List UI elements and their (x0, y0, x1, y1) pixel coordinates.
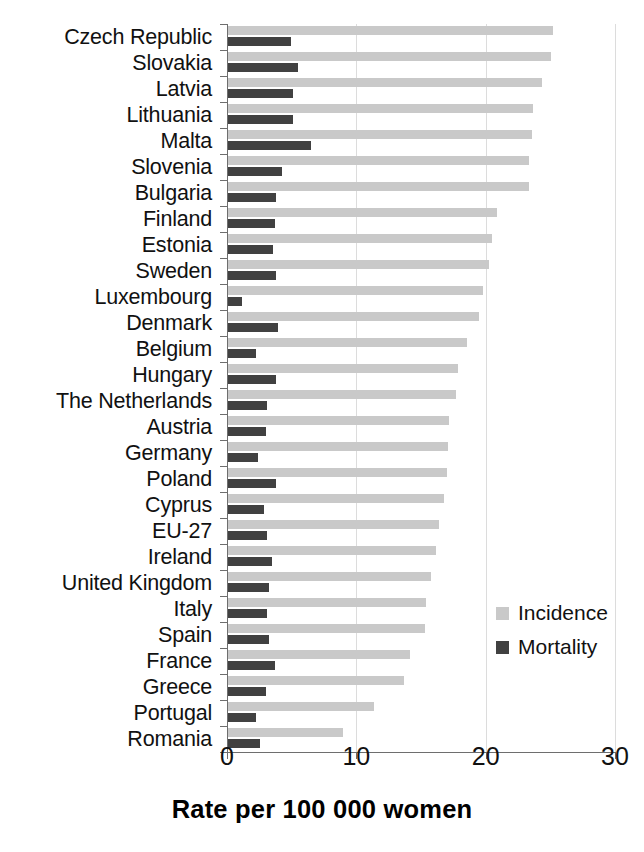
bar-incidence (228, 312, 479, 321)
category-label: The Netherlands (56, 388, 212, 414)
y-axis-tick (220, 596, 227, 597)
y-axis-tick (220, 336, 227, 337)
bar-mortality (228, 453, 258, 462)
x-axis-tick-label: 10 (326, 742, 386, 771)
category-label: France (146, 648, 212, 674)
y-axis-tick (220, 544, 227, 545)
legend-swatch-mortality-icon (496, 641, 509, 654)
legend-label-incidence: Incidence (518, 601, 608, 625)
y-axis-tick (220, 154, 227, 155)
bar-mortality (228, 193, 276, 202)
y-axis-tick (220, 50, 227, 51)
y-axis-tick (220, 622, 227, 623)
category-label: Italy (174, 596, 212, 622)
category-label: Greece (143, 674, 212, 700)
y-axis-tick (220, 674, 227, 675)
bar-incidence (228, 546, 436, 555)
y-axis-tick (220, 206, 227, 207)
bar-mortality (228, 427, 266, 436)
bar-incidence (228, 78, 542, 87)
category-label: Austria (146, 414, 212, 440)
y-axis-tick (220, 414, 227, 415)
y-axis-tick (220, 466, 227, 467)
y-axis-tick (220, 232, 227, 233)
bar-incidence (228, 52, 551, 61)
bar-incidence (228, 650, 410, 659)
bar-mortality (228, 505, 264, 514)
y-axis-tick (220, 362, 227, 363)
bar-incidence (228, 338, 467, 347)
bar-incidence (228, 676, 404, 685)
bar-mortality (228, 141, 311, 150)
bar-mortality (228, 635, 269, 644)
category-label: Estonia (142, 232, 212, 258)
category-label: Luxembourg (94, 284, 212, 310)
bar-incidence (228, 156, 529, 165)
bar-mortality (228, 323, 278, 332)
bar-mortality (228, 531, 267, 540)
bar-incidence (228, 598, 426, 607)
bar-incidence (228, 104, 533, 113)
bar-mortality (228, 167, 282, 176)
bar-mortality (228, 245, 273, 254)
bar-incidence (228, 260, 489, 269)
bar-incidence (228, 416, 449, 425)
category-label: EU-27 (152, 518, 212, 544)
legend-swatch-incidence-icon (496, 607, 509, 620)
bar-mortality (228, 479, 276, 488)
bar-mortality (228, 271, 276, 280)
bar-mortality (228, 115, 293, 124)
bar-incidence (228, 728, 343, 737)
y-axis-tick (220, 570, 227, 571)
category-axis-labels: Czech RepublicSlovakiaLatviaLithuaniaMal… (0, 24, 220, 752)
bar-incidence (228, 182, 529, 191)
bar-incidence (228, 390, 456, 399)
bar-incidence (228, 26, 553, 35)
bar-mortality (228, 713, 256, 722)
y-axis-tick (220, 180, 227, 181)
y-axis-tick (220, 102, 227, 103)
bar-incidence (228, 520, 439, 529)
bar-incidence (228, 442, 448, 451)
category-label: Bulgaria (135, 180, 212, 206)
bar-mortality (228, 349, 256, 358)
category-label: Denmark (126, 310, 212, 336)
y-axis-tick (220, 648, 227, 649)
y-axis-tick (220, 518, 227, 519)
bar-incidence (228, 494, 444, 503)
bar-incidence (228, 702, 374, 711)
category-label: Poland (146, 466, 212, 492)
bar-incidence (228, 364, 458, 373)
bar-mortality (228, 375, 276, 384)
bar-incidence (228, 234, 492, 243)
y-axis-tick (220, 388, 227, 389)
y-axis-tick (220, 440, 227, 441)
bar-incidence (228, 624, 425, 633)
bar-mortality (228, 297, 242, 306)
bar-mortality (228, 219, 275, 228)
bar-incidence (228, 468, 447, 477)
chart-legend: Incidence Mortality (496, 596, 636, 664)
bar-chart: Czech RepublicSlovakiaLatviaLithuaniaMal… (0, 0, 644, 852)
bar-mortality (228, 63, 298, 72)
x-axis-tick-label: 30 (585, 742, 644, 771)
bar-incidence (228, 208, 497, 217)
category-label: Ireland (148, 544, 212, 570)
x-axis-tick-label: 0 (197, 742, 257, 771)
x-axis-line (227, 752, 616, 753)
category-label: Czech Republic (64, 24, 212, 50)
y-axis-tick (220, 76, 227, 77)
bar-mortality (228, 609, 267, 618)
category-label: Spain (158, 622, 212, 648)
bar-incidence (228, 286, 483, 295)
bar-incidence (228, 130, 532, 139)
y-axis-tick (220, 726, 227, 727)
category-label: Sweden (136, 258, 213, 284)
y-axis-tick (220, 284, 227, 285)
bar-mortality (228, 37, 291, 46)
y-axis-tick (220, 24, 227, 25)
y-axis-tick (220, 492, 227, 493)
bar-mortality (228, 401, 267, 410)
category-label: Belgium (136, 336, 212, 362)
bar-mortality (228, 583, 269, 592)
